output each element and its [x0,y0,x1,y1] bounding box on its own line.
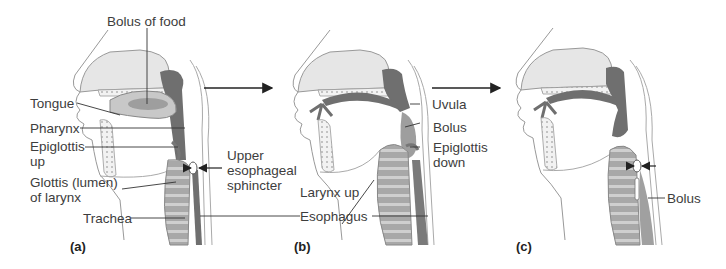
label-pharynx: Pharynx [30,121,80,136]
panel-letter-a: (a) [70,239,86,254]
label-upper-esophageal-sphincter: Upper esophageal sphincter [227,148,297,193]
label-glottis-of-larynx: Glottis (lumen) of larynx [30,175,118,205]
label-bolus-b: Bolus [433,120,467,135]
label-tongue: Tongue [30,96,74,111]
panel-c-illustration [516,28,662,245]
swallowing-diagram [0,0,726,269]
label-uvula: Uvula [432,97,467,112]
label-bolus-c: Bolus [667,191,701,206]
label-epiglottis-up: Epiglottis up [30,139,85,169]
label-epiglottis-down: Epiglottis down [433,140,488,170]
label-larynx-up: Larynx up [300,185,359,200]
label-bolus-of-food: Bolus of food [107,14,186,29]
label-trachea: Trachea [83,211,132,226]
panel-letter-b: (b) [294,239,311,254]
panel-letter-c: (c) [516,239,532,254]
label-esophagus: Esophagus [300,209,368,224]
